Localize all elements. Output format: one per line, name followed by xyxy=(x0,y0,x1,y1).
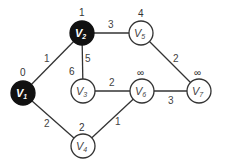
weight-v6-v7: 3 xyxy=(168,95,174,106)
dist-v7: ∞ xyxy=(194,67,201,78)
node-v4: 2 V4 xyxy=(71,122,95,158)
dist-v2: 1 xyxy=(79,7,85,18)
dist-v6: ∞ xyxy=(137,67,144,78)
node-v1: 0 V1 xyxy=(11,67,35,105)
dist-v3: 6 xyxy=(69,66,75,77)
node-v6: ∞ V6 xyxy=(130,67,154,103)
weight-v1-v4: 2 xyxy=(44,118,50,129)
weight-v2-v3: 5 xyxy=(85,53,91,64)
graph-diagram: 1 2 3 5 2 1 2 3 0 V1 1 V2 6 V3 2 V4 4 V5… xyxy=(0,0,225,165)
node-v5: 4 V5 xyxy=(129,8,153,45)
dist-v4: 2 xyxy=(79,122,85,133)
node-v7: ∞ V7 xyxy=(187,67,211,103)
node-v2: 1 V2 xyxy=(70,7,94,45)
weight-v4-v6: 1 xyxy=(115,116,121,127)
dist-v1: 0 xyxy=(20,67,26,78)
weight-v2-v5: 3 xyxy=(108,19,114,30)
dist-v5: 4 xyxy=(138,8,144,19)
weight-v5-v7: 2 xyxy=(173,53,179,64)
node-v3: 6 V3 xyxy=(69,66,95,103)
weight-v3-v6: 2 xyxy=(109,77,115,88)
weight-v1-v2: 1 xyxy=(44,53,50,64)
